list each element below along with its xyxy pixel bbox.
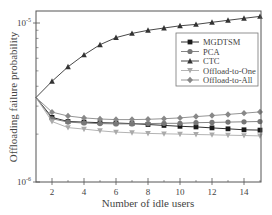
diamond-marker (225, 111, 231, 117)
triangle-up-marker (257, 13, 263, 18)
legend-label: Offload-to-One (203, 66, 256, 76)
legend-label: CTC (203, 56, 220, 66)
circle-marker (209, 120, 214, 125)
square-marker (242, 127, 247, 132)
circle-marker (193, 120, 198, 125)
square-marker (188, 40, 193, 45)
square-marker (226, 126, 231, 131)
square-marker (210, 125, 215, 130)
circle-marker (241, 119, 246, 124)
y-axis-label: Offloading failure probability (7, 31, 19, 162)
x-tick-label: 14 (240, 187, 250, 197)
series-offload-to-all (36, 98, 263, 123)
y-tick-label-bottom: 10-6 (17, 176, 31, 187)
triangle-up-marker (97, 42, 103, 47)
circle-marker (187, 49, 192, 54)
circle-marker (225, 120, 230, 125)
diamond-marker (161, 116, 167, 122)
x-tick-label: 12 (208, 187, 217, 197)
legend-label: MGDTSM (203, 37, 241, 47)
circle-marker (81, 120, 86, 125)
x-tick-label: 10 (176, 187, 186, 197)
diamond-marker (193, 113, 199, 119)
diamond-marker (257, 109, 263, 115)
circle-marker (257, 119, 262, 124)
diamond-marker (177, 115, 183, 121)
square-marker (258, 128, 263, 133)
diamond-marker (241, 110, 247, 116)
diamond-marker (209, 112, 215, 118)
circle-marker (65, 120, 70, 125)
legend-label: PCA (203, 47, 220, 57)
chart-canvas: 2468101214 10-5 10-6 Number of idle user… (0, 0, 272, 215)
triangle-up-marker (81, 52, 87, 57)
x-tick-label: 4 (82, 187, 87, 197)
legend-label: Offload-to-All (203, 75, 253, 85)
diamond-marker (145, 116, 151, 122)
x-tick-label: 6 (114, 187, 119, 197)
triangle-up-marker (65, 64, 71, 69)
legend: MGDTSMPCACTCOffload-to-OneOffload-to-All (176, 33, 258, 86)
x-axis-label: Number of idle users (102, 197, 195, 209)
line-chart: 2468101214 10-5 10-6 Number of idle user… (0, 0, 272, 215)
x-tick-label: 2 (50, 187, 55, 197)
diamond-marker (65, 113, 71, 119)
y-tick-label-top: 10-5 (17, 17, 31, 28)
x-tick-label: 8 (146, 187, 151, 197)
circle-marker (177, 121, 182, 126)
